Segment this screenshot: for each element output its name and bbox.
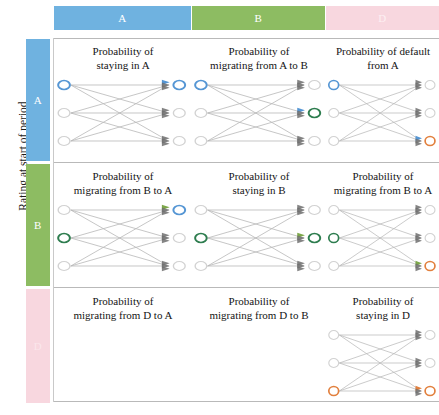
row-header-a: A [26, 39, 50, 161]
column-header-a-label: A [118, 12, 126, 24]
cell-b-d-title-line1: Probability of [353, 170, 414, 182]
cell-d-a-title-line2: migrating from D to A [56, 309, 190, 323]
column-header-a: A [54, 6, 191, 30]
cell-d-a-title: Probability of migrating from D to A [56, 295, 190, 322]
cell-d-b-title-line2: migrating from D to B [193, 309, 325, 323]
grid-vertical-rule [53, 38, 54, 402]
cell-b-d-title-line2: migrating from B to A [327, 184, 439, 198]
cell-a-d-title-line1: Probability of default [336, 45, 430, 57]
cell-a-b: Probability of migrating from A to B [193, 45, 325, 160]
grid-rule-row-2 [54, 287, 439, 288]
cell-d-b-title: Probability of migrating from D to B [193, 295, 325, 322]
cell-d-b: Probability of migrating from D to B [193, 295, 325, 401]
cell-d-a-title-line1: Probability of [93, 295, 154, 307]
grid-rule-bottom [54, 401, 439, 402]
cell-b-a-title: Probability of migrating from B to A [56, 170, 190, 197]
cell-d-d: Probability of staying in D [327, 295, 439, 401]
grid-rule-row-1 [54, 162, 439, 163]
cell-a-a-diagram [56, 77, 190, 149]
column-header-b: B [192, 6, 325, 30]
cell-b-d-title: Probability of migrating from B to A [327, 170, 439, 197]
cell-a-a: Probability of staying in A [56, 45, 190, 160]
column-header-d-label: D [378, 12, 386, 24]
cell-d-b-title-line1: Probability of [229, 295, 290, 307]
cell-b-d: Probability of migrating from B to A [327, 170, 439, 285]
cell-a-d-title-line2: from A [327, 59, 439, 73]
cell-a-b-title-line1: Probability of [229, 45, 290, 57]
cell-d-a: Probability of migrating from D to A [56, 295, 190, 401]
column-header-d: D [326, 6, 439, 30]
cell-a-d-diagram [327, 77, 439, 149]
cell-a-b-title-line2: migrating from A to B [193, 59, 325, 73]
row-header-d: D [26, 289, 50, 403]
cell-a-a-title-line1: Probability of [93, 45, 154, 57]
cell-a-a-title: Probability of staying in A [56, 45, 190, 72]
cell-d-d-title: Probability of staying in D [327, 295, 439, 322]
cell-a-a-title-line2: staying in A [56, 59, 190, 73]
cell-a-b-diagram [193, 77, 325, 149]
cell-d-b-diagram [193, 327, 325, 399]
cell-b-b-title-line2: staying in B [193, 184, 325, 198]
cell-d-d-title-line1: Probability of [353, 295, 414, 307]
cell-b-d-diagram [327, 202, 439, 274]
cell-b-a-title-line1: Probability of [93, 170, 154, 182]
cell-a-b-title: Probability of migrating from A to B [193, 45, 325, 72]
cell-b-b-title-line1: Probability of [229, 170, 290, 182]
cell-b-a-title-line2: migrating from B to A [56, 184, 190, 198]
cell-b-b-title: Probability of staying in B [193, 170, 325, 197]
cell-d-a-diagram [56, 327, 190, 399]
cell-b-b-diagram [193, 202, 325, 274]
row-header-b-label: B [34, 219, 42, 231]
grid-rule-top [54, 38, 439, 39]
row-header-a-label: A [34, 94, 42, 106]
rating-transition-matrix-figure: Rating at start of period A B D A B D Pr… [0, 0, 439, 415]
cell-a-d-title: Probability of default from A [327, 45, 439, 72]
cell-b-b: Probability of staying in B [193, 170, 325, 285]
cell-d-d-title-line2: staying in D [327, 309, 439, 323]
column-header-b-label: B [255, 12, 263, 24]
row-header-d-label: D [34, 340, 42, 352]
cell-a-d: Probability of default from A [327, 45, 439, 160]
cell-d-d-diagram [327, 327, 439, 399]
cell-b-a-diagram [56, 202, 190, 274]
cell-b-a: Probability of migrating from B to A [56, 170, 190, 285]
row-header-b: B [26, 164, 50, 286]
